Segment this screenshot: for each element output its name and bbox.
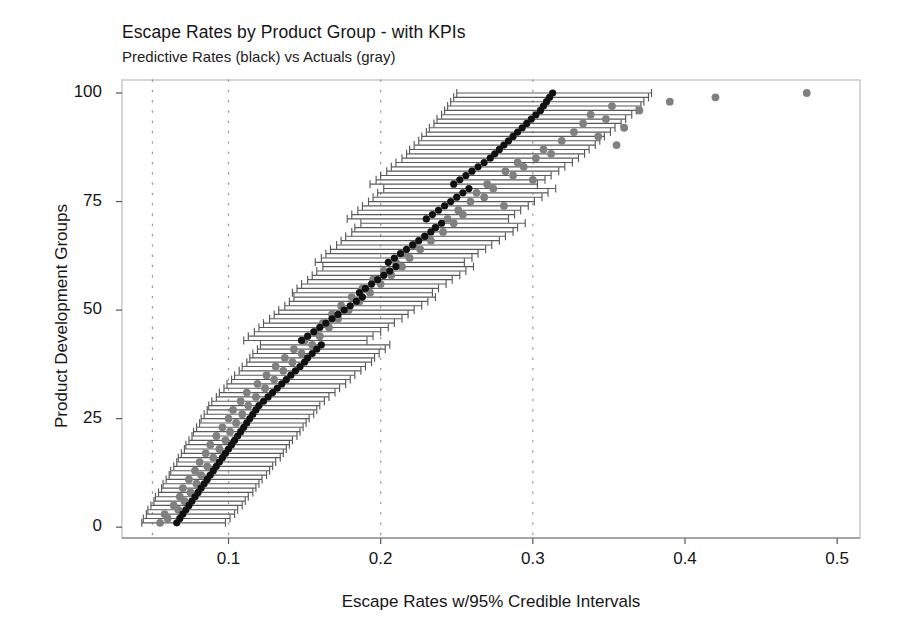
predictive-point (435, 207, 442, 214)
actual-point (509, 172, 517, 180)
predictive-point (481, 159, 488, 166)
actual-point (289, 358, 297, 366)
actual-point (226, 428, 234, 436)
chart-figure: Escape Rates by Product Group - with KPI… (0, 0, 916, 631)
actual-point (502, 167, 510, 175)
actual-markers (156, 89, 811, 527)
actual-point (602, 115, 610, 123)
actual-point (156, 519, 164, 527)
predictive-point (374, 276, 381, 283)
actual-point (191, 467, 199, 475)
actual-point (620, 124, 628, 132)
actual-point (281, 354, 289, 362)
actual-point (613, 141, 621, 149)
actual-point (529, 176, 537, 184)
actual-point (570, 128, 578, 136)
predictive-point (304, 333, 311, 340)
actual-point (232, 419, 240, 427)
actual-point (222, 436, 230, 444)
predictive-point (468, 168, 475, 175)
predictive-point (429, 211, 436, 218)
predictive-point (403, 246, 410, 253)
predictive-point (409, 241, 416, 248)
actual-point (225, 415, 233, 423)
actual-point (444, 215, 452, 223)
actual-point (439, 228, 447, 236)
actual-point (229, 406, 237, 414)
actual-point (298, 350, 306, 358)
actual-point (212, 432, 220, 440)
actual-point (454, 206, 462, 214)
predictive-point (298, 337, 305, 344)
actual-point (237, 397, 245, 405)
predictive-point (441, 202, 448, 209)
actual-point (196, 458, 204, 466)
predictive-point (392, 263, 399, 270)
actual-point (712, 93, 720, 101)
predictive-point (385, 259, 392, 266)
actual-point (587, 111, 595, 119)
predictive-point (328, 315, 335, 322)
predictive-point (353, 298, 360, 305)
actual-point (252, 393, 260, 401)
actual-point (209, 454, 217, 462)
predictive-point (459, 189, 466, 196)
actual-point (547, 150, 555, 158)
actual-point (514, 159, 522, 167)
actual-point (579, 120, 587, 128)
actual-point (803, 89, 811, 97)
actual-point (261, 384, 269, 392)
actual-point (594, 133, 602, 141)
predictive-point (356, 289, 363, 296)
actual-point (467, 198, 475, 206)
predictive-point (334, 311, 341, 318)
predictive-point (362, 285, 369, 292)
actual-point (244, 402, 252, 410)
actual-point (179, 484, 187, 492)
actual-point (480, 193, 488, 201)
predictive-point (438, 220, 445, 227)
predictive-point (432, 224, 439, 231)
actual-point (558, 137, 566, 145)
actual-point (279, 367, 287, 375)
predictive-point (450, 181, 457, 188)
actual-point (185, 475, 193, 483)
actual-point (473, 189, 481, 197)
actual-point (263, 371, 271, 379)
actual-point (176, 493, 184, 501)
plot-frame (122, 80, 860, 538)
predictive-point (341, 306, 348, 313)
predictive-point (453, 194, 460, 201)
actual-point (203, 462, 211, 470)
predictive-point (415, 237, 422, 244)
predictive-point (465, 185, 472, 192)
actual-point (290, 345, 298, 353)
predictive-point (310, 328, 317, 335)
actual-point (272, 363, 280, 371)
actual-point (219, 423, 227, 431)
actual-point (170, 502, 178, 510)
actual-point (161, 510, 169, 518)
predictive-point (316, 324, 323, 331)
predictive-markers (173, 89, 556, 526)
predictive-point (447, 198, 454, 205)
actual-point (608, 102, 616, 110)
predictive-point (318, 341, 325, 348)
predictive-point (380, 272, 387, 279)
actual-point (666, 98, 674, 106)
predictive-point (549, 89, 556, 96)
predictive-point (462, 172, 469, 179)
predictive-point (322, 320, 329, 327)
actual-point (206, 441, 214, 449)
actual-point (540, 146, 548, 154)
plot-canvas (0, 0, 916, 631)
predictive-point (347, 302, 354, 309)
predictive-point (421, 233, 428, 240)
actual-point (243, 389, 251, 397)
actual-point (500, 202, 508, 210)
actual-point (483, 180, 491, 188)
predictive-point (423, 215, 430, 222)
predictive-point (474, 163, 481, 170)
predictive-point (456, 176, 463, 183)
predictive-point (397, 250, 404, 257)
